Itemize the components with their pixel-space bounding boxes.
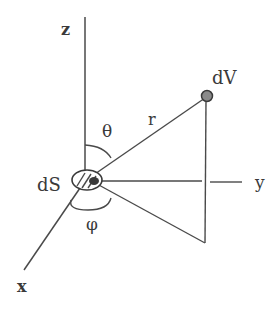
theta-label: θ [102, 121, 112, 141]
dv-label: dV [212, 67, 238, 88]
volume-element-point [202, 91, 213, 102]
phi-label: φ [86, 214, 98, 234]
xy-projection-line [97, 184, 205, 243]
ds-label: dS [37, 174, 61, 195]
z-axis-label: z [61, 20, 70, 39]
x-axis-label: x [17, 277, 27, 296]
spherical-coordinates-diagram: z θ r dV dS y φ x [0, 0, 278, 309]
theta-arc [85, 145, 111, 158]
y-axis-label: y [254, 172, 265, 192]
radius-label: r [148, 110, 156, 129]
surface-element-ds [72, 170, 102, 190]
projection-line [205, 100, 206, 243]
phi-arc [71, 198, 111, 210]
